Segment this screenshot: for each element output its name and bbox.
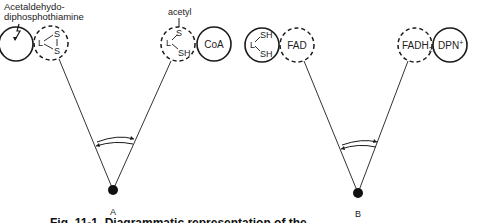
coa-label: CoA — [204, 39, 224, 50]
lipoate-L: L — [38, 38, 43, 48]
swing-arrowhead-right-b-icon — [373, 139, 377, 143]
reduced-SH-bottom: SH — [260, 49, 273, 59]
reduced-L: L — [250, 40, 255, 50]
bond-L-SH — [172, 44, 178, 49]
bond-L-S-top — [44, 35, 53, 41]
dpn-label: DPN+ — [438, 39, 463, 51]
fadh2-base: FADH — [402, 40, 429, 51]
dpn-base: DPN — [438, 40, 459, 51]
acetyl-L: L — [166, 38, 171, 48]
dpn-superscript: + — [459, 39, 463, 46]
pivot-b — [353, 188, 363, 198]
panel-b-label: B — [355, 209, 361, 219]
swing-arrowhead-left-b-icon — [341, 146, 345, 150]
panel-b: L SH SH FAD FADH2 DPN+ B — [245, 28, 467, 219]
lipoate-S-top: S — [54, 29, 60, 39]
arm-line-right-b — [358, 61, 408, 193]
arm-line-left-b — [304, 61, 358, 193]
fadh2-subscript: 2 — [429, 46, 433, 53]
arm-line-right — [113, 61, 171, 190]
swing-arrow-right-b-icon — [342, 141, 377, 145]
swing-arrowhead-right-icon — [130, 136, 134, 140]
swing-arrow-left-icon — [96, 142, 133, 146]
reduced-SH-top: SH — [260, 30, 273, 40]
carrier-label-line2: diphosphothiamine — [4, 11, 84, 22]
swing-arrow-right-icon — [97, 137, 134, 142]
acetyl-SH: SH — [178, 48, 191, 58]
pointer-arrowhead-icon — [13, 37, 17, 41]
bond-L-S-bottom — [44, 44, 53, 49]
pivot-a — [108, 185, 118, 195]
thiamine-circle — [0, 27, 33, 61]
figure-caption: Fig. 11-1. Diagrammatic representation o… — [50, 216, 320, 223]
diagram-canvas: Acetaldehydo- diphosphothiamine L S S ac… — [0, 0, 483, 223]
swing-arrowhead-left-icon — [96, 143, 100, 147]
fad-label: FAD — [287, 40, 306, 51]
panel-a: Acetaldehydo- diphosphothiamine L S S ac… — [0, 1, 231, 217]
lipoate-S-bottom: S — [54, 46, 60, 56]
arm-line-left — [59, 59, 113, 190]
acetyl-label: acetyl — [168, 7, 192, 17]
swing-arrow-left-b-icon — [341, 145, 376, 149]
fadh2-label: FADH2 — [402, 40, 433, 53]
acetyl-S: S — [176, 28, 182, 38]
